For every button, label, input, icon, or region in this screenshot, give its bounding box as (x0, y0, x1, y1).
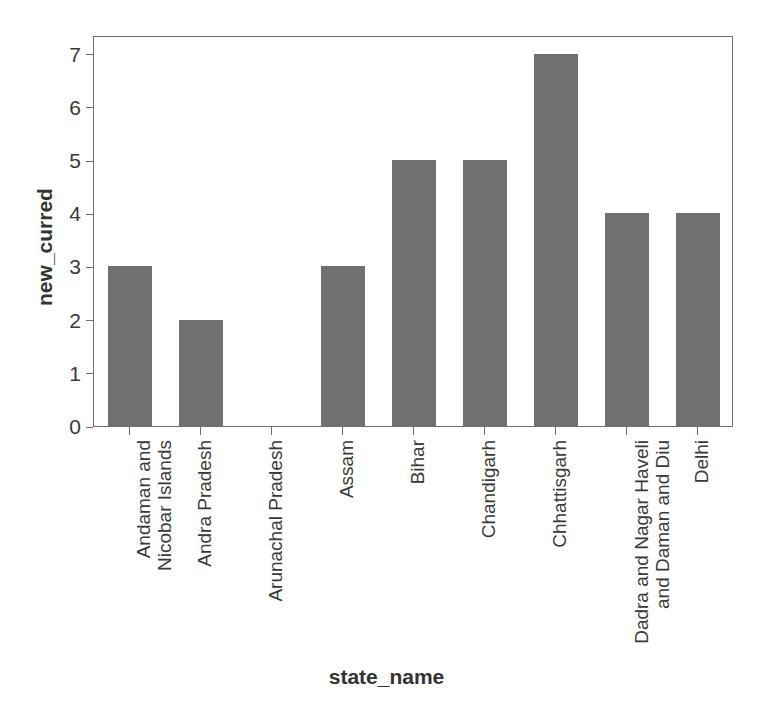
x-axis-title: state_name (0, 665, 773, 689)
y-tick-mark (86, 161, 93, 162)
x-tick-label-line: Chhattisgarh (549, 440, 570, 548)
bars-layer (94, 37, 732, 426)
x-tick-label: Chandigarh (478, 440, 499, 670)
x-tick-mark (484, 427, 485, 435)
x-tick-label: Andra Pradesh (194, 440, 215, 670)
bar-chart-figure: new_curred 01234567 Andaman andNicobar I… (0, 0, 773, 720)
y-tick-mark (86, 214, 93, 215)
y-axis-title: new_curred (33, 147, 57, 347)
y-tick-label: 2 (55, 310, 81, 331)
y-tick-mark (86, 427, 93, 428)
y-tick-label: 6 (55, 97, 81, 118)
bar[interactable] (463, 160, 507, 426)
x-tick-label: Dadra and Nagar Haveliand Daman and Diu (631, 440, 674, 670)
x-tick-mark (129, 427, 130, 435)
x-tick-label-line: Chandigarh (478, 440, 499, 538)
bar[interactable] (534, 54, 578, 426)
bar-slot (521, 37, 592, 426)
bar-slot (592, 37, 663, 426)
x-tick-label: Andaman andNicobar Islands (133, 440, 176, 670)
y-tick-label: 1 (55, 363, 81, 384)
x-tick-label-line: Assam (336, 440, 357, 498)
x-tick-label: Chhattisgarh (549, 440, 570, 670)
x-tick-mark (200, 427, 201, 435)
y-tick-label: 7 (55, 44, 81, 65)
x-tick-label-line: Andra Pradesh (194, 440, 215, 567)
bar-slot (307, 37, 378, 426)
y-tick-mark (86, 267, 93, 268)
bar[interactable] (179, 320, 223, 426)
bar[interactable] (108, 266, 152, 426)
bar-slot (165, 37, 236, 426)
bar-slot (94, 37, 165, 426)
x-tick-label-line: Andaman and (133, 440, 154, 558)
y-tick-mark (86, 320, 93, 321)
x-tick-label: Arunachal Pradesh (265, 440, 286, 670)
y-tick-label: 0 (55, 416, 81, 437)
x-tick-label-line: Nicobar Islands (155, 440, 176, 670)
bar[interactable] (605, 213, 649, 426)
bar-slot (236, 37, 307, 426)
x-tick-label-line: Bihar (407, 440, 428, 484)
x-tick-mark (697, 427, 698, 435)
bar-slot (378, 37, 449, 426)
x-tick-label: Assam (336, 440, 357, 670)
y-tick-mark (86, 107, 93, 108)
bar[interactable] (321, 266, 365, 426)
x-tick-mark (413, 427, 414, 435)
x-tick-label-line: Dadra and Nagar Haveli (631, 440, 652, 644)
y-tick-label: 3 (55, 256, 81, 277)
x-tick-label-line: Delhi (691, 440, 712, 483)
plot-area (93, 36, 733, 427)
bar[interactable] (676, 213, 720, 426)
y-tick-label: 5 (55, 150, 81, 171)
x-tick-label-line: Arunachal Pradesh (265, 440, 286, 602)
bar[interactable] (392, 160, 436, 426)
x-tick-mark (271, 427, 272, 435)
x-tick-label: Delhi (691, 440, 712, 670)
x-tick-mark (555, 427, 556, 435)
bar-slot (663, 37, 734, 426)
x-tick-label-line: and Daman and Diu (652, 440, 673, 670)
x-tick-mark (626, 427, 627, 435)
bar-slot (450, 37, 521, 426)
x-tick-label: Bihar (407, 440, 428, 670)
y-tick-mark (86, 54, 93, 55)
y-tick-mark (86, 373, 93, 374)
x-tick-mark (342, 427, 343, 435)
y-tick-label: 4 (55, 203, 81, 224)
